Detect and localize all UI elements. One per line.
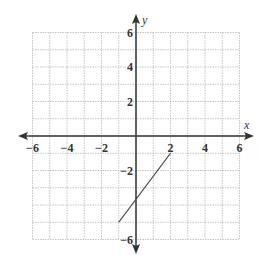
y-tick-label: 6 — [127, 26, 133, 40]
y-tick-label: −2 — [120, 164, 133, 178]
x-tick-label: 6 — [237, 141, 243, 155]
x-axis-label: x — [243, 118, 250, 132]
x-tick-label: −4 — [61, 141, 74, 155]
coordinate-plane: −6−4−2246642−2−6 x y — [0, 0, 264, 265]
x-tick-label: −2 — [95, 141, 108, 155]
y-tick-label: −6 — [120, 233, 133, 247]
y-axis-label: y — [141, 13, 148, 27]
y-tick-label: 2 — [127, 95, 133, 109]
y-tick-label: 4 — [127, 60, 133, 74]
x-tick-label: −6 — [26, 141, 39, 155]
x-tick-label: 2 — [168, 141, 174, 155]
x-tick-label: 4 — [202, 141, 208, 155]
